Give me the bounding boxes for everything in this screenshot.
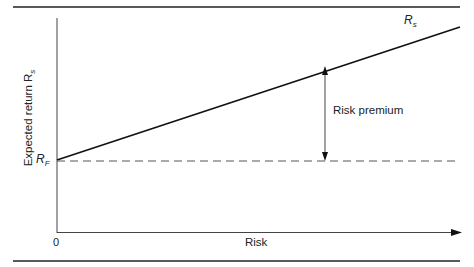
x-axis-label: Risk xyxy=(245,236,267,248)
risk-premium-label: Risk premium xyxy=(333,104,403,116)
rs-line xyxy=(57,27,460,160)
rs-label: Rs xyxy=(404,13,417,29)
y-axis-label: Expected return Rs xyxy=(22,48,37,188)
rf-label: RF xyxy=(36,152,50,168)
y-axis-label-subscript: s xyxy=(28,70,37,74)
rs-label-subscript: s xyxy=(413,20,417,29)
rf-label-text: R xyxy=(36,152,45,166)
rf-label-subscript: F xyxy=(45,159,50,168)
arrow-down-icon xyxy=(322,152,328,161)
diagram-canvas xyxy=(0,0,474,267)
rs-label-text: R xyxy=(404,13,413,27)
x-axis-arrow-icon xyxy=(451,229,462,236)
y-axis-label-text: Expected return R xyxy=(22,74,34,167)
origin-label: 0 xyxy=(53,236,59,248)
